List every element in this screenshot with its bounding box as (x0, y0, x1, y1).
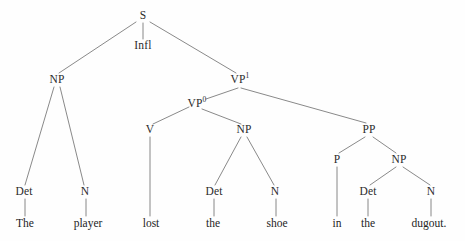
tree-node-np2: NP (236, 124, 251, 136)
tree-node-label-det1: Det (15, 185, 32, 197)
tree-edge-np2-to-n2 (247, 137, 274, 185)
tree-node-label-vp1: VP (230, 73, 245, 85)
tree-node-label-infl: Infl (134, 39, 151, 51)
tree-edge-vp0-to-v (153, 107, 189, 124)
tree-edges-layer (0, 0, 465, 241)
tree-node-label-np1: NP (49, 73, 64, 85)
tree-node-label-vp0: VP (187, 97, 202, 109)
tree-terminal-w-dugout: dugout. (412, 218, 447, 230)
tree-terminal-w-player: player (74, 218, 103, 230)
tree-node-label-det2: Det (205, 185, 222, 197)
tree-node-label-v: V (146, 123, 155, 135)
tree-edge-np1-to-det1 (25, 87, 54, 185)
tree-node-vp0: VP0 (187, 98, 206, 110)
tree-node-infl: Infl (134, 40, 151, 52)
tree-node-p: P (334, 154, 341, 166)
tree-terminal-w-lost: lost (143, 218, 160, 230)
tree-edge-vp1-to-pp (241, 88, 366, 123)
tree-node-label-s: S (140, 9, 147, 21)
tree-terminal-w-in: in (333, 218, 342, 230)
tree-node-label-n2: N (271, 185, 280, 197)
tree-edge-vp1-to-vp0 (206, 88, 238, 99)
tree-node-n3: N (427, 186, 436, 198)
tree-edge-np2-to-det2 (215, 137, 241, 185)
tree-node-label-det3: Det (359, 185, 376, 197)
tree-edge-s-to-np1 (59, 22, 136, 73)
tree-terminal-w-the2: the (206, 218, 220, 230)
tree-node-label-np2: NP (236, 123, 251, 135)
tree-node-label-n3: N (427, 185, 436, 197)
tree-node-pp: PP (362, 124, 375, 136)
tree-edge-np3-to-n3 (403, 167, 430, 185)
tree-node-np1: NP (49, 74, 64, 86)
tree-terminal-w-shoe: shoe (266, 218, 287, 230)
tree-node-label-p: P (334, 153, 341, 165)
tree-node-label-pp: PP (362, 123, 375, 135)
tree-node-np3: NP (391, 154, 406, 166)
tree-node-det1: Det (15, 186, 32, 198)
tree-node-label-n1: N (81, 185, 90, 197)
tree-node-label-np3: NP (391, 153, 406, 165)
tree-terminal-w-the3: the (361, 218, 375, 230)
tree-edge-pp-to-p (339, 137, 365, 153)
tree-node-superscript-vp0: 0 (203, 95, 207, 104)
syntax-tree-diagram: SInflNPVP1VP0VNPPPDetNDetNPNPDetN Thepla… (0, 0, 465, 241)
tree-edge-vp0-to-np2 (202, 109, 241, 124)
tree-node-det3: Det (359, 186, 376, 198)
tree-edge-s-to-vp1 (150, 22, 236, 73)
tree-edge-np1-to-n1 (60, 87, 84, 185)
tree-node-v: V (146, 124, 155, 136)
tree-node-superscript-vp1: 1 (246, 71, 250, 80)
tree-node-n2: N (271, 186, 280, 198)
tree-node-det2: Det (205, 186, 222, 198)
tree-node-vp1: VP1 (230, 74, 249, 86)
tree-node-s: S (140, 10, 147, 22)
tree-edge-pp-to-np3 (373, 137, 396, 153)
tree-terminal-w-the1: The (16, 218, 34, 230)
tree-node-n1: N (81, 186, 90, 198)
tree-edge-np3-to-det3 (370, 167, 396, 185)
